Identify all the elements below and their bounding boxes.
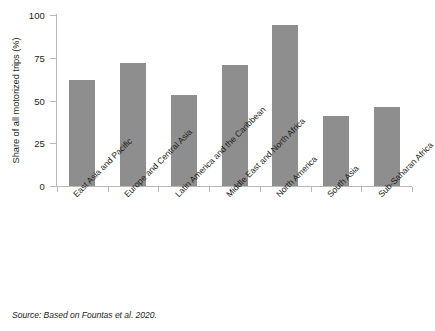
x-axis-tick: [361, 187, 362, 192]
x-axis-tick: [311, 187, 312, 192]
y-axis-tick-label: 100: [29, 10, 45, 21]
bar: [272, 25, 298, 186]
y-axis-tick-label: 25: [34, 138, 45, 149]
y-axis-tick-label: 50: [34, 95, 45, 106]
y-axis-tick: [50, 15, 56, 16]
x-axis-tick: [260, 187, 261, 192]
y-axis-tick: [50, 101, 56, 102]
y-axis-tick: [50, 143, 56, 144]
x-axis-tick: [57, 187, 58, 192]
x-axis-tick: [412, 187, 413, 192]
x-axis-tick: [108, 187, 109, 192]
y-axis-title: Share of all motorized trips (%): [8, 15, 24, 186]
y-axis-tick-label: 75: [34, 52, 45, 63]
source-note: Source: Based on Fountas et al. 2020.: [12, 310, 157, 320]
x-axis-tick: [209, 187, 210, 192]
y-axis-tick-label: 0: [40, 181, 45, 192]
bar: [120, 63, 146, 186]
x-axis-tick: [158, 187, 159, 192]
y-axis-tick: [50, 186, 56, 187]
y-axis-tick: [50, 58, 56, 59]
